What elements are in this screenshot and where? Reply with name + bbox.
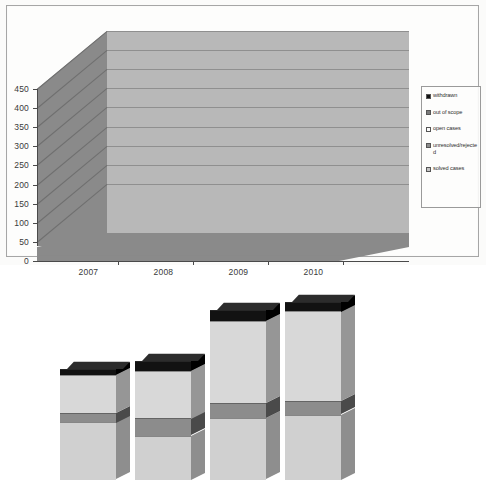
y-axis-tick: 300: [33, 146, 38, 147]
segment-front-face: [135, 436, 191, 480]
gridline: [107, 127, 409, 128]
bar-segment-unresolved-rejected: [210, 403, 266, 418]
bar-segment-unresolved-rejected: [135, 418, 191, 435]
y-axis-tick: 350: [33, 127, 38, 128]
x-axis-tick: [268, 261, 269, 265]
y-axis-tick-label: 300: [14, 142, 29, 151]
y-axis-tick-label: 450: [14, 85, 29, 94]
segment-side-face: [266, 411, 280, 479]
segment-side-face: [341, 408, 355, 480]
gridline: [107, 146, 409, 147]
plot-back-wall: [107, 31, 409, 246]
legend-item-solved-cases[interactable]: solved cases: [426, 165, 477, 172]
segment-front-face: [135, 361, 191, 371]
y-axis-tick-label: 250: [14, 161, 29, 170]
y-axis-tick-label: 200: [14, 181, 29, 190]
y-axis-tick-label: 150: [14, 200, 29, 209]
y-axis-tick-label: 0: [24, 257, 29, 266]
segment-side-face: [266, 314, 280, 403]
x-axis-label-2008: 2008: [154, 267, 174, 277]
bar-segment-solved-cases: [285, 415, 341, 480]
y-axis-tick: 250: [33, 165, 38, 166]
bar-segment-solved-cases: [135, 436, 191, 480]
segment-side-face: [191, 364, 205, 419]
legend-swatch-icon: [426, 127, 431, 132]
bar-segment-open-cases: [210, 321, 266, 403]
legend-item-open-cases[interactable]: open cases: [426, 125, 477, 132]
segment-side-face: [116, 368, 130, 413]
legend-swatch-icon: [426, 167, 431, 172]
segment-front-face: [285, 401, 341, 414]
legend-item-unresolved-rejected[interactable]: unresolved/rejected: [426, 142, 477, 156]
segment-top-face: [292, 295, 355, 302]
legend-label: open cases: [433, 125, 461, 132]
gridline: [107, 107, 409, 108]
chart-legend: withdrawnout of scopeopen casesunresolve…: [421, 86, 481, 208]
gridline: [107, 31, 409, 32]
gridline: [107, 69, 409, 70]
plot-floor: [37, 233, 409, 261]
segment-side-face: [191, 429, 205, 480]
segment-top-face: [142, 354, 205, 361]
legend-item-withdrawn[interactable]: withdrawn: [426, 92, 477, 99]
segment-front-face: [285, 415, 341, 480]
bar-segment-unresolved-rejected: [285, 401, 341, 414]
bar-segment-withdrawn: [285, 302, 341, 312]
gridline: [107, 88, 409, 89]
y-axis-tick: 450: [33, 89, 38, 90]
chart-plot-area: 050100150200250300350400450 200720082009…: [37, 18, 409, 246]
gridline: [107, 50, 409, 51]
segment-front-face: [60, 375, 116, 413]
bar-segment-open-cases: [285, 311, 341, 401]
segment-top-face: [67, 362, 130, 369]
legend-label: unresolved/rejected: [433, 142, 477, 156]
y-axis-tick-label: 400: [14, 104, 29, 113]
x-axis-label-2010: 2010: [304, 267, 324, 277]
x-axis-label-2007: 2007: [79, 267, 99, 277]
x-axis-tick: [118, 261, 119, 265]
segment-front-face: [210, 310, 266, 321]
legend-item-out-of-scope[interactable]: out of scope: [426, 109, 477, 116]
y-axis-tick: 100: [33, 223, 38, 224]
bar-segment-solved-cases: [210, 418, 266, 479]
y-axis-tick-label: 50: [19, 238, 29, 247]
segment-front-face: [285, 302, 341, 312]
bar-segment-unresolved-rejected: [60, 413, 116, 423]
scanned-page-frame: 050100150200250300350400450 200720082009…: [6, 5, 479, 257]
x-axis-tick: [343, 261, 344, 265]
legend-label: out of scope: [433, 109, 462, 116]
segment-front-face: [210, 321, 266, 403]
segment-top-face: [217, 302, 280, 309]
bar-segment-withdrawn: [210, 310, 266, 321]
y-axis-tick-label: 100: [14, 219, 29, 228]
segment-front-face: [210, 403, 266, 418]
segment-front-face: [60, 422, 116, 479]
legend-label: solved cases: [433, 165, 464, 172]
bar-segment-solved-cases: [60, 422, 116, 479]
y-axis-tick-label: 350: [14, 123, 29, 132]
gridline: [107, 184, 409, 185]
y-axis-tick: 400: [33, 108, 38, 109]
y-axis-tick: 200: [33, 185, 38, 186]
legend-swatch-icon: [426, 110, 431, 115]
gridline: [107, 165, 409, 166]
segment-front-face: [210, 418, 266, 479]
y-axis-tick: 150: [33, 204, 38, 205]
segment-front-face: [135, 371, 191, 419]
x-axis-line: [37, 261, 409, 262]
bar-segment-withdrawn: [135, 361, 191, 371]
x-axis-tick: [193, 261, 194, 265]
segment-side-face: [341, 304, 355, 401]
segment-front-face: [60, 413, 116, 423]
segment-front-face: [285, 311, 341, 401]
legend-label: withdrawn: [433, 92, 457, 99]
bar-segment-withdrawn: [60, 369, 116, 375]
segment-front-face: [60, 369, 116, 375]
legend-swatch-icon: [426, 143, 431, 148]
x-axis-label-2009: 2009: [229, 267, 249, 277]
segment-side-face: [116, 415, 130, 479]
y-axis-tick: 50: [33, 242, 38, 243]
segment-front-face: [135, 418, 191, 435]
bar-segment-open-cases: [60, 375, 116, 413]
